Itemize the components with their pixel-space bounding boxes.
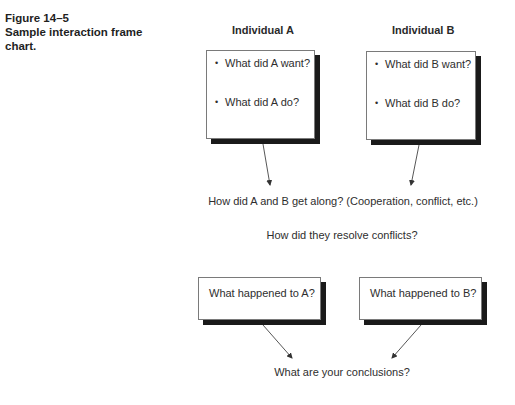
arrow-outcome-b-to-conclusion <box>392 325 421 358</box>
arrow-b-to-interaction <box>411 145 419 185</box>
connector-arrows <box>0 0 515 405</box>
arrow-outcome-a-to-conclusion <box>263 325 292 358</box>
arrow-a-to-interaction <box>263 144 270 185</box>
